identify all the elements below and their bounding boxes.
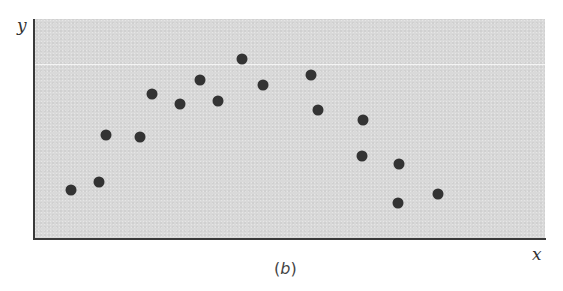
data-point xyxy=(213,96,224,107)
caption-close: ) xyxy=(290,259,296,278)
x-axis xyxy=(33,238,546,240)
data-point xyxy=(258,80,269,91)
data-point xyxy=(357,151,368,162)
data-point xyxy=(147,89,158,100)
data-point xyxy=(175,99,186,110)
data-point xyxy=(195,75,206,86)
data-point xyxy=(393,198,404,209)
data-point xyxy=(306,70,317,81)
y-axis xyxy=(33,19,35,240)
plot-area xyxy=(34,19,545,239)
y-axis-label: y xyxy=(17,17,27,34)
reference-line xyxy=(34,64,545,65)
data-point xyxy=(101,130,112,141)
data-point xyxy=(66,185,77,196)
data-point xyxy=(394,159,405,170)
data-point xyxy=(313,105,324,116)
figure-caption: (b) xyxy=(274,259,297,278)
x-axis-label: x xyxy=(532,246,542,263)
data-point xyxy=(358,115,369,126)
data-point xyxy=(237,54,248,65)
data-point xyxy=(135,132,146,143)
caption-letter: b xyxy=(280,259,290,278)
data-point xyxy=(94,177,105,188)
data-point xyxy=(433,189,444,200)
